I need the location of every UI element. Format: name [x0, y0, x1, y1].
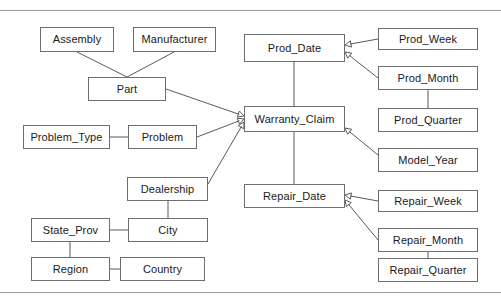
entity-repair_week[interactable]: Repair_Week: [378, 190, 478, 212]
entity-prod_date[interactable]: Prod_Date: [244, 34, 345, 62]
entity-prod_quarter[interactable]: Prod_Quarter: [378, 108, 478, 132]
diagram-canvas: AssemblyManufacturerPartProblem_TypeProb…: [0, 0, 501, 304]
entity-label-part: Part: [117, 84, 138, 95]
top-rule: [0, 10, 501, 11]
arrowhead-prod_month-to-prod_date: [345, 52, 352, 58]
edge-repair_month-to-repair_date: [348, 204, 378, 240]
edge-prod_week-to-prod_date: [350, 39, 378, 44]
entity-label-prod_month: Prod_Month: [398, 73, 459, 84]
edge-prod_month-to-prod_date: [349, 55, 378, 78]
entity-repair_month[interactable]: Repair_Month: [378, 228, 478, 252]
edge-dealership-to-warranty_claim: [208, 126, 241, 184]
edge-manufacturer-to-part: [127, 52, 174, 77]
entity-label-city: City: [158, 225, 177, 236]
entity-label-region: Region: [53, 264, 88, 275]
entity-repair_date[interactable]: Repair_Date: [244, 184, 345, 208]
entity-label-manufacturer: Manufacturer: [141, 34, 207, 45]
entity-dealership[interactable]: Dealership: [127, 177, 208, 201]
entity-label-assembly: Assembly: [53, 34, 101, 45]
entity-model_year[interactable]: Model_Year: [378, 148, 478, 172]
bottom-rule: [0, 292, 501, 293]
entity-label-repair_week: Repair_Week: [394, 196, 462, 207]
arrowhead-problem-to-warranty_claim: [237, 118, 244, 124]
entity-repair_quarter[interactable]: Repair_Quarter: [378, 258, 478, 282]
entity-label-prod_week: Prod_Week: [399, 34, 457, 45]
entity-label-problem: Problem: [142, 132, 184, 143]
arrowhead-repair_week-to-repair_date: [345, 193, 351, 199]
arrowhead-prod_week-to-prod_date: [345, 41, 351, 47]
edge-problem-to-warranty_claim: [197, 121, 239, 137]
entity-assembly[interactable]: Assembly: [40, 27, 114, 52]
entity-problem_type[interactable]: Problem_Type: [23, 125, 110, 149]
entity-city[interactable]: City: [128, 218, 208, 242]
entity-label-repair_date: Repair_Date: [263, 191, 326, 202]
entity-problem[interactable]: Problem: [128, 125, 197, 149]
entity-label-warranty_claim: Warranty_Claim: [255, 114, 335, 125]
entity-part[interactable]: Part: [88, 77, 166, 101]
edge-assembly-to-part: [77, 52, 127, 77]
entity-label-prod_date: Prod_Date: [268, 43, 322, 54]
edge-part-to-warranty_claim: [166, 89, 239, 114]
edge-repair_week-to-repair_date: [350, 196, 378, 201]
entity-state_prov[interactable]: State_Prov: [31, 218, 110, 242]
entity-prod_week[interactable]: Prod_Week: [378, 28, 478, 50]
arrowhead-repair_month-to-repair_date: [345, 200, 351, 207]
entity-label-prod_quarter: Prod_Quarter: [394, 115, 462, 126]
entity-prod_month[interactable]: Prod_Month: [378, 66, 478, 90]
entity-region[interactable]: Region: [31, 257, 110, 281]
entity-label-dealership: Dealership: [141, 184, 195, 195]
entity-country[interactable]: Country: [120, 257, 205, 281]
entity-manufacturer[interactable]: Manufacturer: [133, 27, 216, 52]
entity-warranty_claim[interactable]: Warranty_Claim: [244, 106, 345, 132]
arrowhead-part-to-warranty_claim: [237, 111, 244, 117]
edge-model_year-to-warranty_claim: [349, 131, 378, 155]
entity-label-problem_type: Problem_Type: [30, 132, 102, 143]
entity-label-state_prov: State_Prov: [43, 225, 98, 236]
entity-label-repair_month: Repair_Month: [393, 235, 463, 246]
entity-label-repair_quarter: Repair_Quarter: [389, 265, 466, 276]
arrowhead-model_year-to-warranty_claim: [345, 128, 352, 134]
entity-label-country: Country: [143, 264, 182, 275]
entity-label-model_year: Model_Year: [398, 155, 457, 166]
